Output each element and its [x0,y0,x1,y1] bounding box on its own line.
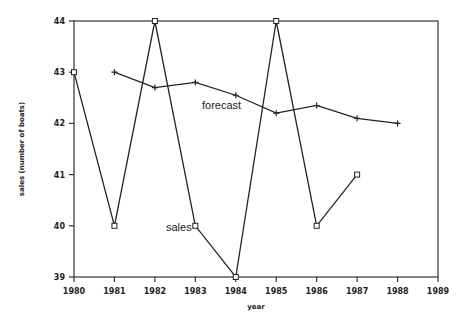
sales-marker [112,223,117,228]
sales-marker [355,172,360,177]
y-tick-label: 39 [54,273,66,282]
forecast-line [114,72,397,123]
y-axis: 394041424344 [54,17,74,282]
sales-marker [152,19,157,24]
forecast-label: forecast [202,99,241,111]
y-tick-label: 43 [54,68,65,77]
sales-marker [314,223,319,228]
x-tick-label: 1980 [63,287,86,296]
y-tick-label: 41 [54,171,66,180]
x-tick-label: 1988 [386,287,409,296]
forecast-marker [152,85,158,91]
forecast-marker [395,120,401,126]
sales-marker [274,19,279,24]
x-tick-label: 1983 [184,287,206,296]
forecast-marker [273,110,279,116]
x-axis-title: year [247,303,265,311]
x-tick-label: 1981 [103,287,126,296]
line-chart: 394041424344 198019811982198319841985198… [0,0,466,329]
forecast-marker [314,102,320,108]
y-tick-label: 44 [54,17,66,26]
sales-marker [233,275,238,280]
series-layer [72,19,401,280]
forecast-marker [354,115,360,121]
forecast-marker [192,79,198,85]
y-tick-label: 40 [54,222,66,231]
forecast-marker [111,69,117,75]
x-tick-label: 1984 [225,287,248,296]
sales-marker [193,223,198,228]
sales-marker [72,70,77,75]
sales-label: sales [166,221,192,233]
sales-line [74,21,357,277]
x-tick-label: 1986 [306,287,329,296]
y-axis-title: sales (number of boats) [18,102,26,196]
x-tick-label: 1987 [346,287,368,296]
x-axis: 1980198119821983198419851986198719881989 [63,277,450,296]
x-tick-label: 1989 [427,287,450,296]
x-tick-label: 1985 [265,287,288,296]
x-tick-label: 1982 [144,287,166,296]
y-tick-label: 42 [54,119,65,128]
forecast-marker [233,92,239,98]
